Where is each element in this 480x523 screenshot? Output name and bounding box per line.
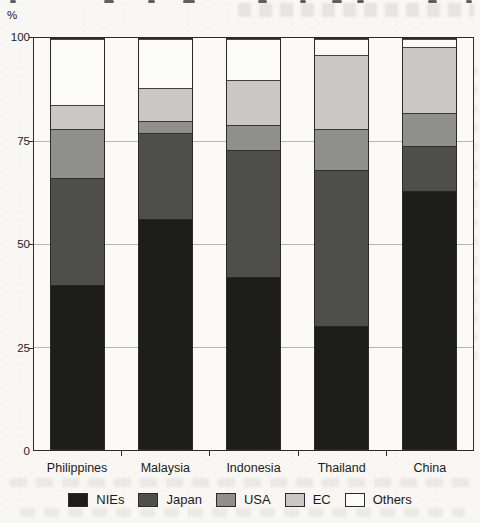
y-tick-label-0: 0 (0, 444, 30, 458)
segment-ec (139, 88, 192, 121)
segment-nies (227, 277, 280, 449)
y-tick-label-100: 100 (0, 30, 30, 44)
y-tick-mark-25 (29, 348, 33, 349)
legend-label-japan: Japan (166, 492, 201, 507)
legend-item-others: Others (345, 492, 412, 507)
bar-column-indonesia (210, 38, 298, 450)
category-label-indonesia: Indonesia (209, 461, 297, 475)
segment-ec (315, 55, 368, 129)
bar-philippines (50, 38, 105, 450)
category-labels: PhilippinesMalaysiaIndonesiaThailandChin… (33, 461, 474, 475)
plot-area (33, 37, 474, 451)
bar-column-thailand (297, 38, 385, 450)
segment-usa (315, 129, 368, 170)
legend: NIEsJapanUSAECOthers (0, 492, 480, 507)
segment-others (315, 39, 368, 55)
y-tick-mark-50 (29, 244, 33, 245)
legend-item-nies: NIEs (68, 492, 124, 507)
legend-item-usa: USA (216, 492, 271, 507)
y-tick-mark-75 (29, 141, 33, 142)
segment-japan (403, 146, 456, 191)
legend-label-nies: NIEs (96, 492, 124, 507)
y-tick-label-75: 75 (0, 134, 30, 148)
legend-swatch-others (345, 493, 365, 507)
legend-label-usa: USA (244, 492, 271, 507)
y-tick-label-25: 25 (0, 341, 30, 355)
segment-japan (315, 170, 368, 326)
segment-others (403, 39, 456, 47)
bar-china (402, 38, 457, 450)
segment-japan (227, 150, 280, 277)
segment-ec (51, 105, 104, 130)
segment-others (51, 39, 104, 105)
category-label-china: China (386, 461, 474, 475)
legend-label-ec: EC (313, 492, 331, 507)
x-tick-mark-2 (209, 450, 210, 456)
segment-nies (403, 191, 456, 449)
segment-others (139, 39, 192, 88)
segment-usa (403, 113, 456, 146)
legend-item-ec: EC (285, 492, 331, 507)
category-label-philippines: Philippines (33, 461, 121, 475)
bar-column-china (385, 38, 473, 450)
bar-column-philippines (34, 38, 122, 450)
stacked-bar-chart: 0255075100 PhilippinesMalaysiaIndonesiaT… (0, 0, 480, 523)
legend-swatch-nies (68, 493, 88, 507)
x-tick-mark-3 (298, 450, 299, 456)
bar-indonesia (226, 38, 281, 450)
segment-ec (403, 47, 456, 113)
x-tick-mark-4 (386, 450, 387, 456)
y-tick-label-50: 50 (0, 237, 30, 251)
segment-usa (139, 121, 192, 133)
segment-japan (51, 178, 104, 285)
segment-japan (139, 133, 192, 219)
segment-usa (51, 129, 104, 178)
legend-swatch-ec (285, 493, 305, 507)
segment-ec (227, 80, 280, 125)
segment-nies (315, 326, 368, 449)
legend-swatch-japan (138, 493, 158, 507)
bar-column-malaysia (122, 38, 210, 450)
segment-nies (139, 219, 192, 449)
legend-swatch-usa (216, 493, 236, 507)
legend-item-japan: Japan (138, 492, 201, 507)
category-label-malaysia: Malaysia (121, 461, 209, 475)
x-tick-mark-1 (121, 450, 122, 456)
y-tick-mark-100 (29, 37, 33, 38)
bar-thailand (314, 38, 369, 450)
category-label-thailand: Thailand (298, 461, 386, 475)
segment-usa (227, 125, 280, 150)
bar-malaysia (138, 38, 193, 450)
segment-others (227, 39, 280, 80)
segment-nies (51, 285, 104, 449)
legend-label-others: Others (373, 492, 412, 507)
